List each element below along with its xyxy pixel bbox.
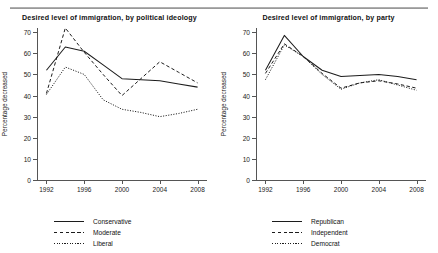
y-tick-label: 20 xyxy=(9,134,31,141)
x-tick-label: 2008 xyxy=(409,186,423,193)
y-tick-label: 30 xyxy=(228,113,250,120)
legend-swatch-dotted-icon xyxy=(272,243,302,244)
legend-item: Independent xyxy=(272,227,348,238)
x-tick-label: 2008 xyxy=(190,186,204,193)
y-tick-label: 50 xyxy=(228,71,250,78)
x-tick-mark xyxy=(46,180,47,184)
chart-panel-party: Desired level of immigration, by party P… xyxy=(219,12,438,212)
legend-item: Moderate xyxy=(54,227,131,238)
y-tick-label: 70 xyxy=(9,29,31,36)
x-tick-mark xyxy=(417,180,418,184)
figure-container: Desired level of immigration, by politic… xyxy=(0,0,438,253)
y-tick-label: 40 xyxy=(9,92,31,99)
legend-item: Liberal xyxy=(54,238,131,249)
x-tick-mark xyxy=(341,180,342,184)
legend-label: Liberal xyxy=(93,238,113,249)
legend-item: Democrat xyxy=(272,238,348,249)
legend-ideology: Conservative Moderate Liberal xyxy=(54,216,131,250)
x-tick-mark xyxy=(379,180,380,184)
legend-label: Democrat xyxy=(311,238,340,249)
legend-label: Republican xyxy=(311,216,344,227)
legend-swatch-dashed-icon xyxy=(272,232,302,233)
legend-party: Republican Independent Democrat xyxy=(272,216,348,250)
y-tick-label: 20 xyxy=(228,134,250,141)
legend-label: Independent xyxy=(311,227,348,238)
x-tick-mark xyxy=(198,180,199,184)
legend-swatch-dashed-icon xyxy=(54,232,84,233)
series-line-conservative xyxy=(46,47,197,87)
x-tick-mark xyxy=(303,180,304,184)
x-tick-label: 2000 xyxy=(115,186,129,193)
x-tick-mark xyxy=(160,180,161,184)
y-tick-label: 40 xyxy=(228,92,250,99)
legend-swatch-dotted-icon xyxy=(54,243,84,244)
chart-panel-ideology: Desired level of immigration, by politic… xyxy=(0,12,219,212)
y-tick-label: 60 xyxy=(9,50,31,57)
x-tick-mark xyxy=(122,180,123,184)
plot-area-ideology: 010203040506070 19921996200020042008 xyxy=(37,28,207,180)
y-axis-label-ideology: Percentage decreased xyxy=(1,72,8,136)
legend-swatch-solid-icon xyxy=(272,221,302,222)
y-tick-mark xyxy=(33,180,37,181)
x-tick-label: 1996 xyxy=(296,186,310,193)
legend-swatch-solid-icon xyxy=(54,221,84,222)
series-line-independent xyxy=(265,44,416,88)
y-axis-label-party: Percentage decreased xyxy=(220,72,227,136)
x-tick-label: 1992 xyxy=(39,186,53,193)
y-tick-label: 10 xyxy=(9,155,31,162)
legend-label: Moderate xyxy=(93,227,121,238)
y-tick-label: 10 xyxy=(228,155,250,162)
x-tick-label: 2004 xyxy=(372,186,386,193)
x-tick-label: 2000 xyxy=(334,186,348,193)
series-line-republican xyxy=(265,35,416,79)
chart-panels: Desired level of immigration, by politic… xyxy=(0,12,438,212)
y-tick-label: 70 xyxy=(228,29,250,36)
plot-area-party: 010203040506070 19921996200020042008 xyxy=(256,28,426,180)
legend-item: Conservative xyxy=(54,216,131,227)
chart-title-ideology: Desired level of immigration, by politic… xyxy=(0,14,219,22)
y-tick-label: 0 xyxy=(228,177,250,184)
y-tick-label: 0 xyxy=(9,177,31,184)
y-tick-mark xyxy=(252,180,256,181)
chart-title-party: Desired level of immigration, by party xyxy=(219,14,438,22)
header-divider xyxy=(10,7,428,9)
series-line-liberal xyxy=(46,67,197,117)
series-lines-party xyxy=(256,28,426,180)
x-tick-label: 1992 xyxy=(258,186,272,193)
x-tick-label: 2004 xyxy=(153,186,167,193)
legend-item: Republican xyxy=(272,216,348,227)
series-lines-ideology xyxy=(37,28,207,180)
legend-label: Conservative xyxy=(93,216,131,227)
y-tick-label: 50 xyxy=(9,71,31,78)
x-tick-mark xyxy=(84,180,85,184)
y-tick-label: 60 xyxy=(228,50,250,57)
x-tick-mark xyxy=(265,180,266,184)
y-tick-label: 30 xyxy=(9,113,31,120)
series-line-moderate xyxy=(46,28,197,96)
x-tick-label: 1996 xyxy=(77,186,91,193)
series-line-democrat xyxy=(265,45,416,90)
